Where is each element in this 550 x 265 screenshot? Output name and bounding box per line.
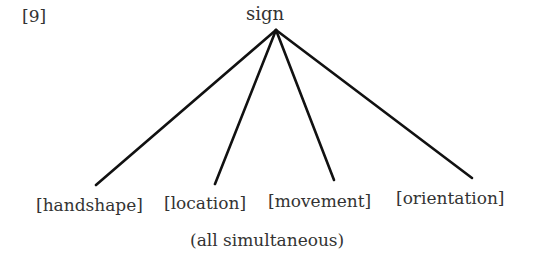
branch-location — [215, 30, 276, 184]
node-orientation: [orientation] — [396, 190, 505, 207]
node-location: [location] — [164, 195, 246, 212]
node-movement: [movement] — [268, 193, 371, 210]
branch-handshape — [96, 30, 276, 185]
caption: (all simultaneous) — [190, 232, 344, 249]
tree-branches — [0, 0, 550, 265]
node-handshape: [handshape] — [36, 197, 143, 214]
